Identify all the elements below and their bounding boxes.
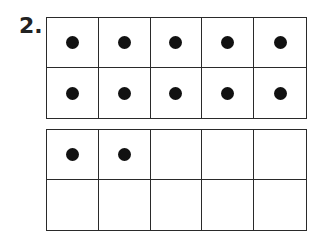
counter-dot (118, 87, 131, 100)
counter-dot (274, 87, 287, 100)
frame-cell (47, 130, 99, 180)
frame-cell (202, 68, 254, 118)
frame-cell (151, 180, 203, 230)
frame-cell (151, 68, 203, 118)
frame-cell (47, 180, 99, 230)
counter-dot (118, 36, 131, 49)
counter-dot (169, 36, 182, 49)
counter-dot (66, 148, 79, 161)
frame-cell (254, 130, 306, 180)
frame-cell (254, 18, 306, 68)
counter-dot (221, 87, 234, 100)
frame-cell (99, 68, 151, 118)
frame-cell (99, 180, 151, 230)
frame-cell (254, 180, 306, 230)
counter-dot (66, 36, 79, 49)
ten-frame-1 (46, 17, 307, 119)
frame-cell (47, 68, 99, 118)
frame-cell (151, 130, 203, 180)
counter-dot (221, 36, 234, 49)
frame-cell (254, 68, 306, 118)
frame-cell (99, 18, 151, 68)
ten-frame-2 (46, 129, 307, 231)
frame-cell (202, 180, 254, 230)
problem-number: 2. (19, 13, 43, 38)
frame-cell (151, 18, 203, 68)
counter-dot (169, 87, 182, 100)
frame-cell (202, 18, 254, 68)
frame-cell (47, 18, 99, 68)
counter-dot (118, 148, 131, 161)
frame-cell (99, 130, 151, 180)
frame-cell (202, 130, 254, 180)
counter-dot (66, 87, 79, 100)
counter-dot (274, 36, 287, 49)
